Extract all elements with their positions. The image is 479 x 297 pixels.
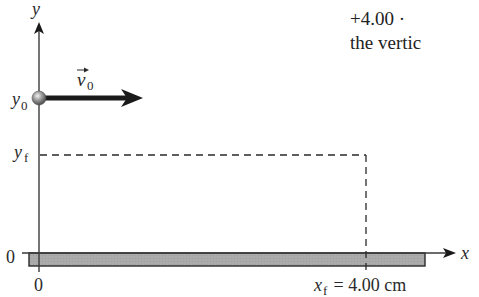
svg-text:y: y xyxy=(12,142,22,162)
svg-text:= 4.00 cm: = 4.00 cm xyxy=(329,275,406,295)
final-height-label: y f xyxy=(12,142,29,165)
final-x-label: x f = 4.00 cm xyxy=(313,275,406,297)
svg-text:f: f xyxy=(24,150,29,165)
initial-height-label: y 0 xyxy=(10,89,28,113)
svg-text:y: y xyxy=(10,89,20,109)
y-axis-label: y xyxy=(30,0,40,19)
ball-icon xyxy=(32,91,46,105)
x-origin-label: 0 xyxy=(34,275,43,295)
y-origin-label: 0 xyxy=(6,247,15,267)
projectile-diagram: y x v 0 y 0 y f 0 0 x f = 4.00 cm xyxy=(0,0,479,297)
velocity-vector xyxy=(44,89,143,107)
svg-text:f: f xyxy=(323,283,328,297)
svg-text:0: 0 xyxy=(87,78,94,93)
svg-text:0: 0 xyxy=(21,98,28,113)
y-axis xyxy=(34,22,44,272)
velocity-label: v 0 xyxy=(77,68,94,94)
svg-text:x: x xyxy=(313,275,322,295)
x-axis-label: x xyxy=(460,243,469,263)
